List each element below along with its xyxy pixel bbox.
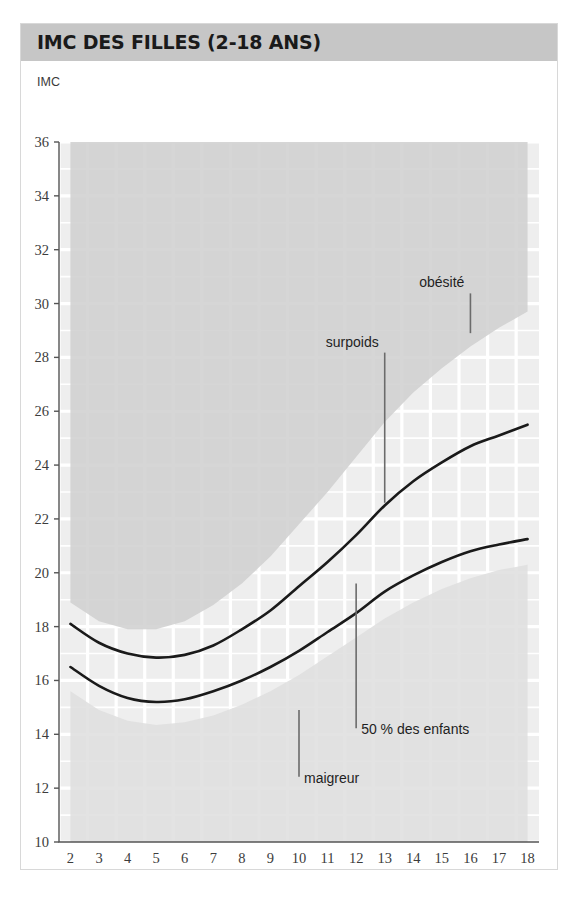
chart-area: IMC 101214161820222426283032343623456789… bbox=[21, 61, 557, 869]
y-tick-label: 10 bbox=[35, 834, 50, 850]
x-tick-label: 10 bbox=[292, 850, 307, 866]
x-tick-label: 17 bbox=[492, 850, 507, 866]
x-tick-label: 2 bbox=[67, 850, 74, 866]
x-tick-label: 6 bbox=[181, 850, 188, 866]
card-header: IMC DES FILLES (2-18 ANS) bbox=[21, 24, 557, 61]
annotation-label-cinquante-pourcent: 50 % des enfants bbox=[361, 721, 469, 737]
chart-card: IMC DES FILLES (2-18 ANS) IMC 1012141618… bbox=[20, 23, 558, 870]
y-tick-label: 20 bbox=[35, 565, 50, 581]
x-tick-label: 13 bbox=[377, 850, 392, 866]
x-tick-label: 4 bbox=[124, 850, 132, 866]
y-tick-label: 36 bbox=[35, 134, 50, 150]
y-tick-label: 32 bbox=[35, 242, 50, 258]
y-tick-label: 34 bbox=[35, 188, 50, 204]
bmi-growth-chart: 1012141618202224262830323436234567891011… bbox=[21, 61, 557, 869]
y-tick-label: 12 bbox=[35, 780, 50, 796]
annotation-label-obesite: obésité bbox=[419, 274, 464, 290]
page-title: IMC DES FILLES (2-18 ANS) bbox=[37, 31, 321, 53]
x-tick-label: 9 bbox=[267, 850, 274, 866]
annotation-label-maigreur: maigreur bbox=[304, 770, 360, 786]
page-root: IMC DES FILLES (2-18 ANS) IMC 1012141618… bbox=[0, 0, 579, 898]
x-tick-label: 14 bbox=[406, 850, 421, 866]
y-tick-label: 30 bbox=[35, 296, 50, 312]
y-tick-label: 26 bbox=[35, 403, 50, 419]
y-tick-label: 14 bbox=[35, 726, 50, 742]
x-tick-label: 11 bbox=[321, 850, 335, 866]
y-tick-label: 22 bbox=[35, 511, 50, 527]
x-tick-label: 7 bbox=[210, 850, 217, 866]
x-tick-label: 16 bbox=[463, 850, 478, 866]
x-tick-label: 3 bbox=[95, 850, 102, 866]
x-tick-label: 18 bbox=[520, 850, 535, 866]
x-tick-label: 5 bbox=[153, 850, 160, 866]
annotation-label-surpoids: surpoids bbox=[326, 334, 379, 350]
y-tick-label: 24 bbox=[35, 457, 50, 473]
y-tick-label: 28 bbox=[35, 349, 50, 365]
x-tick-label: 15 bbox=[435, 850, 450, 866]
y-tick-label: 16 bbox=[35, 672, 50, 688]
x-tick-label: 8 bbox=[238, 850, 245, 866]
y-tick-label: 18 bbox=[35, 619, 50, 635]
x-tick-label: 12 bbox=[349, 850, 364, 866]
